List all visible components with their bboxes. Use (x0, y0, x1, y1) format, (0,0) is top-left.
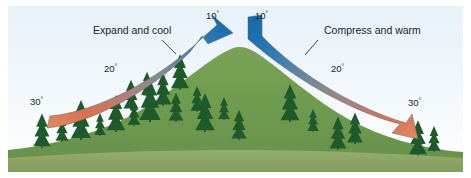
temp-value-left-mid: 20 (104, 63, 115, 74)
degree-symbol: ° (217, 10, 220, 17)
temp-value-left-base: 30 (30, 96, 41, 107)
label-expand-and-cool: Expand and cool (93, 24, 171, 36)
orographic-diagram-figure: Expand and cool Compress and warm 30° 20… (0, 0, 471, 178)
diagram-canvas: Expand and cool Compress and warm 30° 20… (0, 0, 471, 178)
temp-value-right-base: 30 (408, 97, 419, 108)
degree-symbol: ° (419, 97, 422, 104)
temp-value-left-summit: 10 (206, 10, 217, 21)
degree-symbol: ° (41, 96, 44, 103)
temp-value-right-summit: 10 (255, 10, 266, 21)
temp-value-right-mid: 20 (331, 63, 342, 74)
degree-symbol: ° (115, 63, 118, 70)
degree-symbol: ° (266, 10, 269, 17)
label-compress-and-warm: Compress and warm (324, 24, 421, 36)
degree-symbol: ° (342, 63, 345, 70)
